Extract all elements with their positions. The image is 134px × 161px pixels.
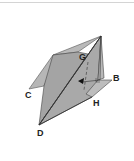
label-c: C xyxy=(25,90,32,100)
label-b: B xyxy=(113,73,120,83)
label-h: H xyxy=(93,98,100,108)
label-d: D xyxy=(37,128,44,138)
label-g: G xyxy=(79,52,86,62)
geometry-diagram: G B C H D xyxy=(0,0,134,161)
